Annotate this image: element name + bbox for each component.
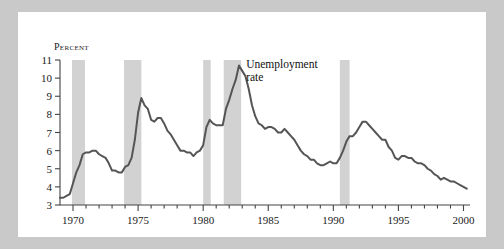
y-tick-label: 6 [47,145,53,157]
recession-band [340,60,350,205]
axis-lines [60,60,470,205]
unemployment-rate-line [60,65,467,197]
series-annotation-line2: rate [246,71,263,83]
recession-bands [72,60,350,205]
y-axis-title: Percent [54,41,89,52]
x-tick-label: 2000 [452,214,475,226]
y-tick-label: 8 [47,108,53,120]
unemployment-rate-chart: 345678910111970197519801985199019952000P… [18,12,486,237]
y-tick-label: 9 [47,90,53,102]
y-tick-label: 10 [41,72,53,84]
y-tick-label: 11 [41,54,52,66]
x-tick-label: 1970 [62,214,85,226]
y-tick-label: 7 [47,127,53,139]
y-tick-label: 3 [47,199,53,211]
chart-svg: 345678910111970197519801985199019952000P… [18,12,486,237]
recession-band [124,60,141,205]
y-tick-label: 5 [47,163,53,175]
x-tick-label: 1995 [387,214,410,226]
x-tick-label: 1985 [257,214,280,226]
x-tick-label: 1980 [192,214,215,226]
x-tick-label: 1990 [322,214,345,226]
figure-frame: 345678910111970197519801985199019952000P… [0,0,504,249]
figure-plate: 345678910111970197519801985199019952000P… [18,12,486,237]
series-annotation-line1: Unemployment [246,58,318,71]
recession-band [203,60,211,205]
recession-band [224,60,241,205]
x-tick-label: 1975 [127,214,150,226]
series-annotation: Unemploymentrate [246,58,318,83]
y-tick-label: 4 [47,181,53,193]
